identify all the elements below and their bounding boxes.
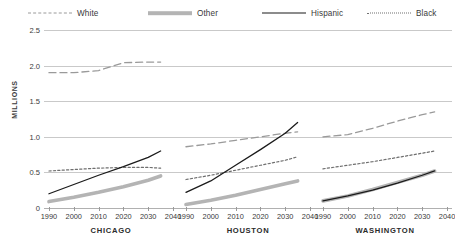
x-axis-tick-label: 2040 bbox=[439, 212, 455, 221]
x-axis-tick-label: 2030 bbox=[140, 212, 156, 221]
series-line-other bbox=[49, 176, 161, 202]
x-axis-tickmark bbox=[211, 207, 212, 211]
x-axis-tick-label: 2010 bbox=[90, 212, 106, 221]
x-axis-tick-label: 2030 bbox=[414, 212, 430, 221]
y-axis-tick-label: 1.0 bbox=[14, 132, 40, 141]
legend-swatch-black-icon bbox=[367, 8, 411, 18]
x-axis-tickmark bbox=[173, 207, 174, 211]
x-axis-tickmark bbox=[348, 207, 349, 211]
plot-area-chicago bbox=[44, 30, 178, 208]
series-line-white bbox=[323, 112, 435, 137]
x-axis-tickmark bbox=[373, 207, 374, 211]
series-line-black bbox=[49, 167, 161, 171]
series-line-white bbox=[49, 62, 161, 73]
series-line-hispanic bbox=[49, 151, 161, 194]
x-axis-tick-label: 2020 bbox=[115, 212, 131, 221]
x-axis-tickmark bbox=[310, 207, 311, 211]
x-axis-tickmark bbox=[422, 207, 423, 211]
y-axis-tick-label: 0 bbox=[14, 204, 40, 213]
series-line-black bbox=[323, 151, 435, 169]
plot-area-washington bbox=[318, 30, 452, 208]
panel-houston: 199020002010202020302040 HOUSTON bbox=[181, 30, 315, 208]
x-axis-tickmark bbox=[397, 207, 398, 211]
x-axis-tick-label: 1990 bbox=[315, 212, 331, 221]
x-axis-tick-label: 2010 bbox=[227, 212, 243, 221]
x-axis-tick-label: 2030 bbox=[277, 212, 293, 221]
x-axis-tick-label: 1990 bbox=[41, 212, 57, 221]
legend-label-black: Black bbox=[416, 9, 437, 18]
x-axis-tick-label: 1990 bbox=[178, 212, 194, 221]
x-axis-tickmark bbox=[323, 207, 324, 211]
x-axis-tick-label: 2020 bbox=[389, 212, 405, 221]
population-projection-chart: White Other Hispanic Black MILLIONS 00.5… bbox=[0, 0, 455, 239]
x-axis-tickmark bbox=[186, 207, 187, 211]
y-axis-tick-label: 0.5 bbox=[14, 168, 40, 177]
panel-title-washington: WASHINGTON bbox=[318, 226, 452, 235]
panel-title-houston: HOUSTON bbox=[181, 226, 315, 235]
x-axis-tickmark bbox=[49, 207, 50, 211]
legend-item-other[interactable]: Other bbox=[148, 4, 218, 22]
x-axis-tickmark bbox=[285, 207, 286, 211]
x-axis-tick-label: 2000 bbox=[66, 212, 82, 221]
panel-washington: 199020002010202020302040 WASHINGTON bbox=[318, 30, 452, 208]
x-axis-tick-label: 2010 bbox=[364, 212, 380, 221]
legend-item-white[interactable]: White bbox=[28, 4, 98, 22]
legend-item-hispanic[interactable]: Hispanic bbox=[262, 4, 343, 22]
panel-chicago: 199020002010202020302040 CHICAGO bbox=[44, 30, 178, 208]
x-axis-tickmark bbox=[74, 207, 75, 211]
series-line-white bbox=[186, 132, 298, 147]
legend-swatch-white-icon bbox=[28, 8, 72, 18]
plot-area-houston bbox=[181, 30, 315, 208]
x-axis-tick-label: 2000 bbox=[340, 212, 356, 221]
y-axis-tick-label: 2.0 bbox=[14, 61, 40, 70]
gridline bbox=[44, 208, 452, 209]
x-axis-tickmark bbox=[260, 207, 261, 211]
legend-label-hispanic: Hispanic bbox=[311, 9, 343, 18]
legend-item-black[interactable]: Black bbox=[367, 4, 437, 22]
cropped-title-fragment bbox=[30, 0, 150, 3]
legend-swatch-other-icon bbox=[148, 8, 192, 18]
x-axis-tickmark bbox=[99, 207, 100, 211]
chart-legend: White Other Hispanic Black bbox=[0, 4, 455, 22]
x-axis-tickmark bbox=[123, 207, 124, 211]
x-axis-tick-label: 2000 bbox=[203, 212, 219, 221]
x-axis-tickmark bbox=[236, 207, 237, 211]
y-axis-tick-label: 1.5 bbox=[14, 97, 40, 106]
panel-title-chicago: CHICAGO bbox=[44, 226, 178, 235]
series-line-other bbox=[323, 171, 435, 201]
series-line-black bbox=[186, 157, 298, 180]
x-axis-tickmark bbox=[447, 207, 448, 211]
legend-swatch-hispanic-icon bbox=[262, 8, 306, 18]
series-line-hispanic bbox=[186, 123, 298, 193]
legend-label-white: White bbox=[77, 9, 98, 18]
legend-label-other: Other bbox=[197, 9, 218, 18]
x-axis-tick-label: 2020 bbox=[252, 212, 268, 221]
x-axis-tickmark bbox=[148, 207, 149, 211]
y-axis-tick-label: 2.5 bbox=[14, 26, 40, 35]
